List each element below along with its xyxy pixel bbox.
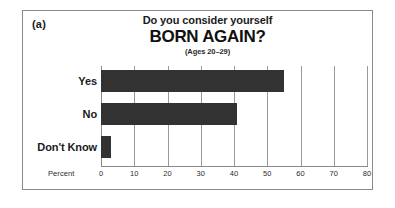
bar-yes bbox=[101, 70, 284, 92]
gridline-60 bbox=[301, 66, 302, 166]
x-tick-label-40: 40 bbox=[222, 169, 246, 178]
x-tick-label-70: 70 bbox=[322, 169, 346, 178]
x-tick-label-10: 10 bbox=[122, 169, 146, 178]
plot-area bbox=[101, 66, 367, 166]
chart-figure: (a) Do you consider yourself BORN AGAIN?… bbox=[0, 0, 395, 208]
category-axis-labels: YesNoDon't Know bbox=[9, 66, 97, 166]
category-label-no: No bbox=[11, 108, 97, 120]
x-tick-label-60: 60 bbox=[289, 169, 313, 178]
chart-title-line2: BORN AGAIN? bbox=[85, 27, 330, 46]
chart-title-line1: Do you consider yourself bbox=[85, 14, 330, 27]
x-tick-label-20: 20 bbox=[156, 169, 180, 178]
bar-don-t-know bbox=[101, 136, 111, 158]
category-label-yes: Yes bbox=[11, 75, 97, 87]
x-axis-baseline bbox=[101, 166, 368, 167]
chart-title-block: Do you consider yourself BORN AGAIN? (Ag… bbox=[85, 14, 330, 57]
gridline-80 bbox=[367, 66, 368, 166]
x-tick-label-80: 80 bbox=[355, 169, 379, 178]
category-label-don-t-know: Don't Know bbox=[11, 141, 97, 153]
x-tick-label-0: 0 bbox=[89, 169, 113, 178]
x-axis-tick-labels: 01020304050607080 bbox=[101, 169, 368, 181]
x-axis-title: Percent bbox=[48, 169, 75, 178]
panel-label: (a) bbox=[32, 18, 46, 30]
gridline-70 bbox=[334, 66, 335, 166]
bar-no bbox=[101, 103, 237, 125]
chart-subtitle: (Ages 20–29) bbox=[85, 46, 330, 57]
x-tick-label-50: 50 bbox=[255, 169, 279, 178]
x-tick-label-30: 30 bbox=[189, 169, 213, 178]
